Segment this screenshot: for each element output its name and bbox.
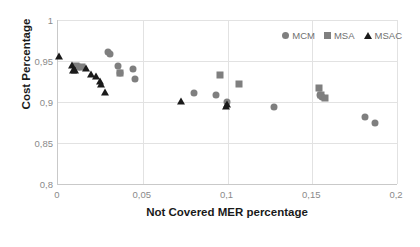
- data-point-msac: [97, 81, 105, 88]
- chart-legend: MCMMSAMSAC: [282, 30, 402, 41]
- data-point-mcm: [130, 65, 137, 72]
- data-point-mcm: [371, 119, 378, 126]
- x-axis-tick-label: 0,15: [302, 189, 321, 200]
- triangle-marker-icon: [364, 32, 372, 39]
- data-point-msac: [71, 67, 79, 74]
- legend-label: MSAC: [375, 30, 402, 41]
- square-marker-icon: [324, 32, 331, 39]
- legend-entry-msa: MSA: [324, 30, 355, 41]
- data-point-msac: [223, 101, 231, 108]
- data-point-msa: [116, 69, 123, 76]
- cropped-title-remnant: [120, 0, 160, 5]
- data-point-mcm: [132, 75, 139, 82]
- legend-entry-msac: MSAC: [364, 30, 402, 41]
- x-axis-tick-labels: 00,050,10,150,2: [57, 189, 397, 203]
- gridline-vertical: [312, 20, 313, 184]
- x-axis-tick-label: 0,2: [389, 189, 402, 200]
- y-axis-tick-label: 0,95: [35, 56, 54, 67]
- data-point-msa: [216, 71, 223, 78]
- data-point-mcm: [361, 114, 368, 121]
- y-axis-tick-label: 1: [48, 15, 53, 26]
- data-point-msa: [235, 81, 242, 88]
- data-point-msac: [177, 98, 185, 105]
- data-point-msac: [101, 88, 109, 95]
- data-point-mcm: [115, 62, 122, 69]
- y-axis-tick-label: 0,8: [40, 179, 53, 190]
- x-axis-tick-label: 0: [54, 189, 59, 200]
- data-point-mcm: [213, 92, 220, 99]
- x-axis-tick-label: 0,05: [133, 189, 152, 200]
- data-point-mcm: [106, 51, 113, 58]
- y-axis-tick-label: 0,85: [35, 138, 54, 149]
- y-axis-tick-label: 0,9: [40, 97, 53, 108]
- gridline-vertical: [143, 20, 144, 184]
- legend-label: MSA: [334, 30, 355, 41]
- data-point-msa: [321, 95, 328, 102]
- circle-marker-icon: [282, 32, 289, 39]
- data-point-mcm: [271, 103, 278, 110]
- y-axis-tick-labels: 0,80,850,90,951: [14, 20, 53, 185]
- gridline-vertical: [397, 20, 398, 184]
- chart-screenshot: Cost Percentage 0,80,850,90,951 00,050,1…: [0, 0, 420, 247]
- legend-entry-mcm: MCM: [282, 30, 315, 41]
- x-axis-tick-label: 0,1: [220, 189, 233, 200]
- legend-label: MCM: [292, 30, 315, 41]
- data-point-mcm: [190, 89, 197, 96]
- plot-area: [57, 20, 397, 185]
- data-point-msac: [55, 53, 63, 60]
- x-axis-title: Not Covered MER percentage: [57, 206, 397, 218]
